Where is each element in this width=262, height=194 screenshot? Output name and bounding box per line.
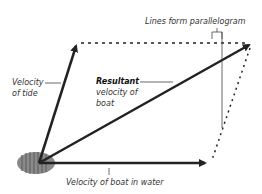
leader-lines <box>45 28 222 175</box>
resultant-label-line3: boat <box>96 99 114 109</box>
resultant-label-line2: velocity of <box>96 88 138 98</box>
resultant-label-bold: Resultant <box>96 77 139 87</box>
parallelogram-label: Lines form parallelogram <box>145 17 245 27</box>
water-label: Velocity of boat in water <box>66 178 164 188</box>
parallelogram-right-side <box>212 48 250 160</box>
tide-label-line1: Velocity <box>12 78 44 88</box>
tide-label-line2: of tide <box>12 89 38 99</box>
